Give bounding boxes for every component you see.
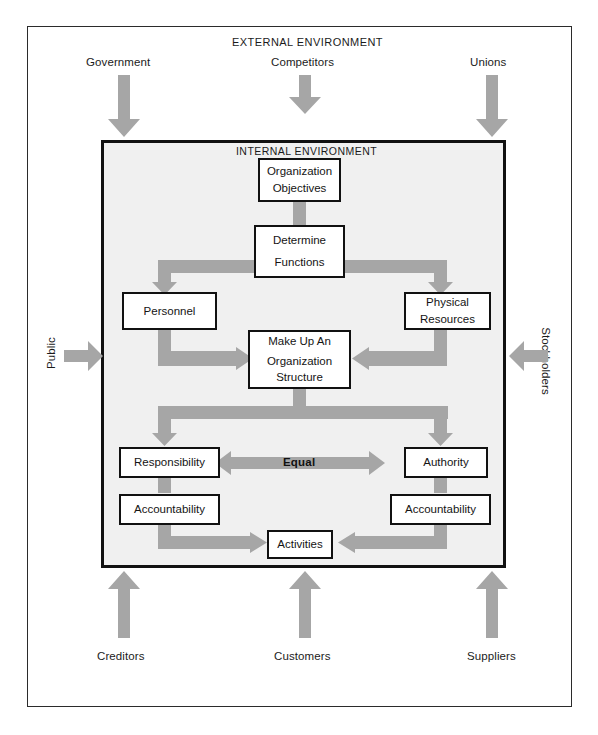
arrow-physical-resources-to-structure bbox=[351, 347, 447, 377]
external-label-government: Government bbox=[86, 56, 150, 68]
external-environment-title: EXTERNAL ENVIRONMENT bbox=[232, 36, 383, 48]
arrow-accountability-right-to-activities bbox=[337, 532, 447, 560]
equal-connector-label: Equal bbox=[283, 456, 315, 468]
node-organization-structure-line2: Organization bbox=[267, 353, 332, 370]
arrow-structure-to-responsibility bbox=[152, 406, 178, 447]
arrow-stockholders-left bbox=[508, 341, 548, 371]
connector-structure-down-stem bbox=[293, 388, 306, 408]
external-label-public: Public bbox=[45, 337, 57, 369]
arrow-accountability-left-to-activities bbox=[158, 532, 268, 560]
arrow-functions-to-physical-resources bbox=[428, 260, 454, 296]
node-accountability-right[interactable]: Accountability bbox=[390, 494, 491, 525]
node-responsibility-line1: Responsibility bbox=[134, 454, 205, 471]
connector-responsibility-to-accountability bbox=[158, 477, 171, 493]
node-organization-structure[interactable]: Make Up An Organization Structure bbox=[248, 330, 351, 389]
connector-authority-to-accountability bbox=[434, 477, 447, 493]
node-determine-functions-line1: Determine bbox=[273, 230, 326, 252]
arrow-public-right bbox=[64, 341, 104, 371]
node-activities[interactable]: Activities bbox=[267, 530, 333, 559]
arrow-government-down bbox=[106, 75, 142, 138]
node-determine-functions-line2: Functions bbox=[275, 252, 325, 274]
arrow-creditors-up bbox=[106, 571, 142, 639]
node-physical-resources-line1: Physical bbox=[426, 294, 469, 311]
node-personnel[interactable]: Personnel bbox=[122, 292, 217, 330]
node-organization-objectives[interactable]: Organization Objectives bbox=[258, 158, 341, 202]
external-label-suppliers: Suppliers bbox=[467, 650, 516, 662]
arrow-customers-up bbox=[287, 571, 323, 639]
arrow-competitors-down bbox=[287, 75, 323, 115]
connector-functions-right-run bbox=[335, 260, 441, 273]
external-label-unions: Unions bbox=[470, 56, 506, 68]
arrow-unions-down bbox=[474, 75, 510, 138]
node-accountability-right-line1: Accountability bbox=[405, 501, 476, 518]
node-authority[interactable]: Authority bbox=[404, 447, 488, 478]
arrow-personnel-to-structure bbox=[158, 347, 254, 377]
node-physical-resources[interactable]: Physical Resources bbox=[404, 292, 491, 330]
external-label-creditors: Creditors bbox=[97, 650, 145, 662]
node-authority-line1: Authority bbox=[423, 454, 468, 471]
arrow-suppliers-up bbox=[474, 571, 510, 639]
node-activities-line1: Activities bbox=[277, 536, 322, 553]
node-organization-structure-line1: Make Up An bbox=[268, 333, 331, 350]
arrow-functions-to-personnel bbox=[152, 260, 178, 296]
node-organization-objectives-line1: Organization bbox=[267, 163, 332, 180]
node-organization-objectives-line2: Objectives bbox=[273, 180, 327, 197]
arrow-structure-to-authority bbox=[428, 406, 454, 447]
node-responsibility[interactable]: Responsibility bbox=[119, 447, 220, 478]
diagram-canvas: EXTERNAL ENVIRONMENT Government Competit… bbox=[0, 0, 598, 735]
external-label-customers: Customers bbox=[274, 650, 331, 662]
node-accountability-left-line1: Accountability bbox=[134, 501, 205, 518]
node-accountability-left[interactable]: Accountability bbox=[119, 494, 220, 525]
external-label-competitors: Competitors bbox=[271, 56, 334, 68]
internal-environment-title: INTERNAL ENVIRONMENT bbox=[236, 145, 377, 157]
node-physical-resources-line2: Resources bbox=[420, 311, 475, 328]
node-organization-structure-line3: Structure bbox=[276, 369, 323, 386]
connector-objectives-to-functions bbox=[293, 201, 306, 226]
node-personnel-line1: Personnel bbox=[144, 303, 196, 320]
connector-structure-split-run bbox=[158, 406, 448, 419]
node-determine-functions[interactable]: Determine Functions bbox=[254, 225, 345, 278]
